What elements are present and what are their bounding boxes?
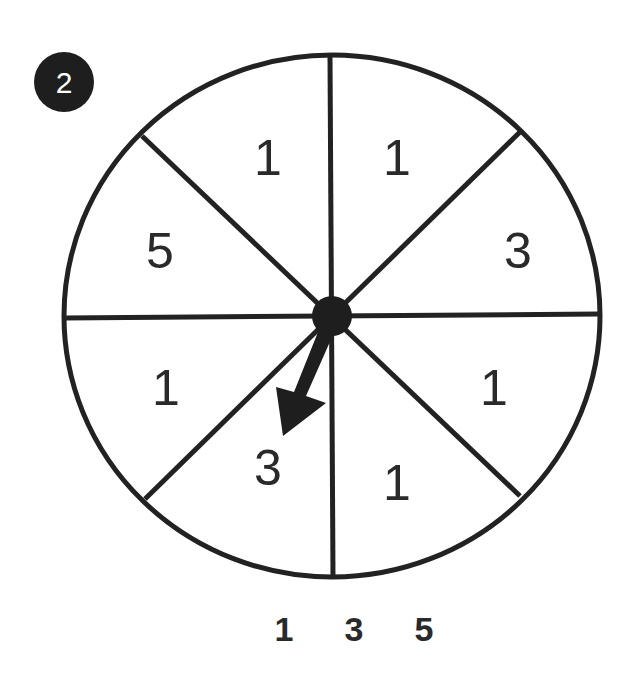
- section-label-left-upper: 5: [146, 223, 174, 279]
- section-label-right-upper: 3: [504, 223, 532, 279]
- problem-number-badge: 2: [34, 52, 94, 112]
- spinner-hub: [312, 296, 352, 336]
- answer-choice-1[interactable]: 1: [275, 610, 294, 648]
- section-label-top-right: 1: [383, 130, 411, 186]
- answer-choices: 1 3 5: [275, 610, 434, 648]
- answer-choice-3[interactable]: 5: [415, 610, 434, 648]
- section-label-bottom-left: 3: [254, 440, 282, 496]
- spinner-diagram: 2 1 1 3 1 1 3 1 5 1 3 5: [0, 0, 623, 673]
- spinner: 1 1 3 1 1 3 1 5: [64, 55, 600, 577]
- section-label-left-lower: 1: [152, 360, 180, 416]
- section-label-bottom-right: 1: [383, 455, 411, 511]
- section-label-top-left: 1: [254, 130, 282, 186]
- section-label-right-lower: 1: [480, 360, 508, 416]
- answer-choice-2[interactable]: 3: [345, 610, 364, 648]
- problem-number: 2: [56, 66, 73, 99]
